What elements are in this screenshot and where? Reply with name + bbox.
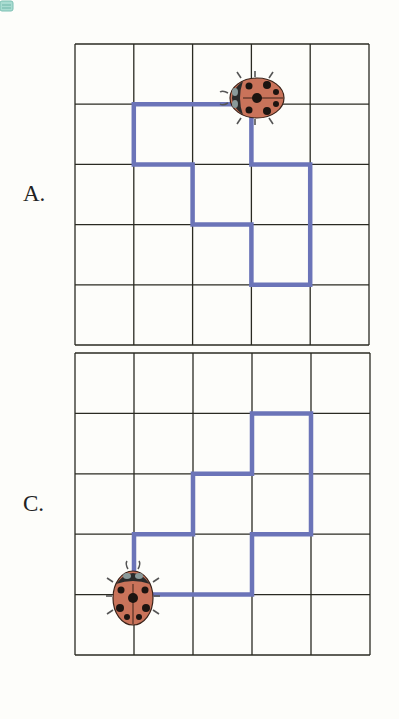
ladybug-path: [134, 413, 311, 594]
ladybug-icon: [106, 561, 160, 625]
